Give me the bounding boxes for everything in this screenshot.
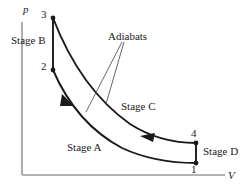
- state-point-label-1: 1: [191, 164, 197, 175]
- adiabats-annotation-label: Adiabats: [108, 31, 147, 42]
- stage-label-d: Stage D: [203, 146, 238, 157]
- state-point-4-marker: [194, 141, 199, 146]
- state-point-label-4: 4: [191, 128, 197, 139]
- y-axis-label: p: [23, 4, 29, 15]
- adiabats-leader-right: [106, 42, 124, 104]
- pv-diagram: p V 3 2 4 1 Stage B Stage A Stage C Stag…: [0, 0, 251, 194]
- stage-label-a: Stage A: [67, 142, 102, 153]
- upper-curve-direction-arrow: [140, 133, 155, 142]
- state-point-3-marker: [51, 16, 56, 21]
- stage-label-b: Stage B: [11, 35, 46, 46]
- state-point-label-3: 3: [41, 9, 47, 20]
- state-point-label-2: 2: [41, 61, 47, 72]
- x-axis-label: V: [228, 170, 235, 181]
- state-point-2-marker: [51, 68, 56, 73]
- stage-label-c: Stage C: [121, 101, 156, 112]
